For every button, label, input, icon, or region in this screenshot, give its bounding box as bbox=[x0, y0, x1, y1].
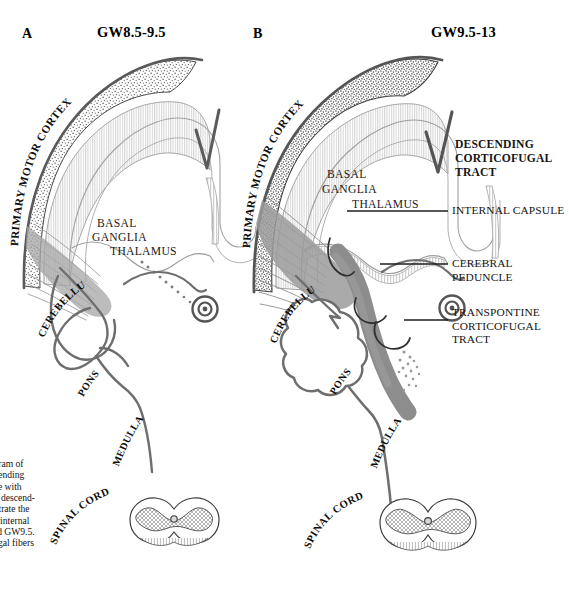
label-thalamus-b: THALAMUS bbox=[352, 198, 419, 211]
caption-line-8: n the corticofugal fibers bbox=[0, 537, 122, 548]
label-basal-b: BASAL bbox=[327, 168, 367, 181]
callout-descending-corticofugal-tract: DESCENDING CORTICOFUGAL TRACT bbox=[455, 138, 552, 180]
caption-line-4: A. The earliest descend- bbox=[0, 492, 122, 503]
panel-a-title: GW8.5-9.5 bbox=[97, 24, 166, 41]
spinal-cord-section-b bbox=[380, 499, 476, 550]
thalamus-band-a bbox=[206, 178, 219, 244]
spinal-cord-section-a bbox=[130, 498, 219, 546]
callout-cerebral-peduncle: CEREBRAL PEDUNCLE bbox=[452, 257, 569, 284]
caption-line-2: ing of the descending bbox=[0, 469, 122, 480]
figure-caption: Summary diagram of ing of the descending… bbox=[0, 458, 122, 549]
pons-bulge-a bbox=[100, 348, 128, 366]
caption-line-7: een GW8.5 and GW9.5. bbox=[0, 526, 122, 537]
panel-a-letter: A bbox=[22, 26, 32, 42]
caption-line-5: gal fibers penetrate the bbox=[0, 503, 122, 514]
callout-internal-capsule: INTERNAL CAPSULE bbox=[452, 204, 564, 218]
caption-line-4-rest: The earliest descend- bbox=[0, 492, 35, 503]
label-pons-a: PONS bbox=[76, 368, 102, 398]
target-ring-a bbox=[193, 297, 218, 322]
dotted-fiber-trail-a bbox=[141, 261, 192, 304]
figure-root: PRIMARY MOTOR CORTEX PRIMARY MOTOR CORTE… bbox=[0, 0, 569, 590]
callout-transpontine-corticofugal-tract: TRANSPONTINE CORTICOFUGAL TRACT bbox=[452, 306, 541, 347]
label-ganglia-b: GANGLIA bbox=[322, 183, 377, 196]
caption-line-6: a and form the internal bbox=[0, 515, 122, 526]
caption-line-1: Summary diagram of bbox=[0, 458, 122, 469]
panel-b-letter: B bbox=[253, 26, 262, 42]
caption-line-3: tract. (Compare with bbox=[0, 481, 122, 492]
label-spinal-cord-b: SPINAL CORD bbox=[302, 490, 365, 550]
label-ganglia-a: GANGLIA bbox=[92, 231, 147, 244]
label-thalamus-a: THALAMUS bbox=[110, 245, 177, 258]
label-basal-a: BASAL bbox=[97, 217, 137, 230]
panel-b-title: GW9.5-13 bbox=[431, 24, 496, 41]
